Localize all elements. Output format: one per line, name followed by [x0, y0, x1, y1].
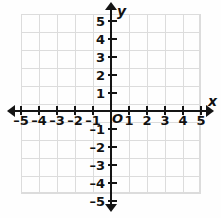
y-tick-mark: [108, 200, 117, 202]
y-tick-mark: [108, 128, 117, 130]
y-tick-label: 5: [71, 15, 105, 28]
x-tick-label: 3: [156, 114, 174, 127]
y-tick-mark: [108, 38, 117, 40]
x-tick-label: –4: [30, 114, 48, 127]
y-tick-label: 3: [71, 51, 105, 64]
y-tick-label: 1: [71, 87, 105, 100]
y-tick-label: 2: [71, 69, 105, 82]
x-tick-label: 4: [174, 114, 192, 127]
y-tick-label: –4: [71, 177, 105, 190]
y-tick-label: –2: [71, 141, 105, 154]
y-tick-mark: [108, 74, 117, 76]
y-tick-mark: [108, 92, 117, 94]
y-tick-label: –3: [71, 159, 105, 172]
y-tick-label: –1: [71, 123, 105, 136]
coordinate-plane-figure: –5–4–3–2–112345 54321–1–2–3–4–5 O x y: [0, 0, 221, 218]
y-tick-mark: [108, 164, 117, 166]
y-tick-mark: [108, 146, 117, 148]
x-tick-label: 5: [192, 114, 210, 127]
x-axis-name-label: x: [208, 94, 217, 108]
x-tick-label: –5: [12, 114, 30, 127]
y-axis-arrow-up-icon: [105, 2, 117, 10]
y-axis-name-label: y: [117, 4, 126, 18]
x-tick-label: –3: [48, 114, 66, 127]
y-tick-mark: [108, 182, 117, 184]
y-tick-mark: [108, 20, 117, 22]
y-axis-arrow-down-icon: [105, 204, 117, 212]
origin-label: O: [112, 112, 123, 125]
x-tick-label: 2: [138, 114, 156, 127]
y-tick-mark: [108, 56, 117, 58]
y-tick-label: –5: [71, 195, 105, 208]
y-tick-label: 4: [71, 33, 105, 46]
